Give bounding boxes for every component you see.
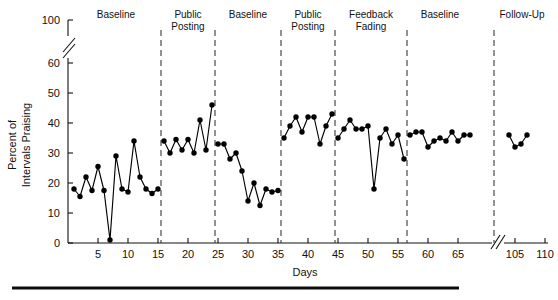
data-point bbox=[347, 117, 352, 122]
data-point bbox=[299, 129, 304, 134]
y-axis-break-mark bbox=[63, 44, 75, 58]
x-tick-label-45: 45 bbox=[332, 248, 344, 260]
y-axis-break-mark bbox=[63, 38, 75, 52]
data-point bbox=[227, 156, 232, 161]
data-point bbox=[275, 188, 280, 193]
y-tick-label-60: 60 bbox=[48, 57, 60, 69]
phase-label-4-line-1: Fading bbox=[356, 21, 387, 32]
data-point bbox=[137, 174, 142, 179]
data-point bbox=[233, 150, 238, 155]
data-point bbox=[89, 188, 94, 193]
data-point bbox=[215, 141, 220, 146]
data-point bbox=[179, 147, 184, 152]
data-point bbox=[293, 114, 298, 119]
y-tick-label-20: 20 bbox=[48, 177, 60, 189]
data-point bbox=[209, 102, 214, 107]
phase-label-6-line-0: Follow-Up bbox=[499, 9, 544, 20]
data-point bbox=[377, 135, 382, 140]
phase-label-1-line-0: Public bbox=[174, 9, 201, 20]
data-point bbox=[239, 168, 244, 173]
data-point bbox=[365, 123, 370, 128]
data-point bbox=[287, 123, 292, 128]
data-point bbox=[353, 126, 358, 131]
y-axis: 0102030405060100 bbox=[42, 14, 75, 249]
data-point bbox=[305, 114, 310, 119]
x-tick-label-25: 25 bbox=[212, 248, 224, 260]
data-point bbox=[449, 129, 454, 134]
x-tick-label-20: 20 bbox=[182, 248, 194, 260]
data-point bbox=[518, 141, 523, 146]
data-point bbox=[161, 138, 166, 143]
data-point bbox=[506, 132, 511, 137]
data-point bbox=[419, 129, 424, 134]
x-tick-label-10: 10 bbox=[122, 248, 134, 260]
data-point bbox=[335, 135, 340, 140]
data-point bbox=[197, 117, 202, 122]
data-point bbox=[311, 114, 316, 119]
data-point bbox=[467, 132, 472, 137]
data-point bbox=[359, 126, 364, 131]
line-chart: 0102030405060100 51015202530354045505560… bbox=[0, 0, 558, 300]
x-tick-label-5: 5 bbox=[95, 248, 101, 260]
data-point bbox=[131, 138, 136, 143]
data-point bbox=[257, 203, 262, 208]
phase-label-3-line-1: Posting bbox=[291, 21, 324, 32]
x-tick-label-40: 40 bbox=[302, 248, 314, 260]
phase-label-5-line-0: Baseline bbox=[421, 9, 460, 20]
data-point bbox=[221, 141, 226, 146]
data-point bbox=[323, 123, 328, 128]
series-line-segment-6 bbox=[509, 135, 527, 147]
series-line-segment-1 bbox=[164, 105, 212, 153]
x-tick-label-15: 15 bbox=[152, 248, 164, 260]
phase-label-3-line-0: Public bbox=[294, 9, 321, 20]
data-point bbox=[461, 132, 466, 137]
x-axis-title: Days bbox=[292, 266, 318, 278]
phase-label-4-line-0: Feedback bbox=[349, 9, 394, 20]
data-point bbox=[77, 194, 82, 199]
phase-label-2-line-0: Baseline bbox=[229, 9, 268, 20]
data-point bbox=[191, 150, 196, 155]
data-point bbox=[173, 137, 178, 142]
data-point bbox=[341, 126, 346, 131]
y-tick-label-100: 100 bbox=[42, 14, 60, 26]
data-point bbox=[512, 144, 517, 149]
data-point bbox=[95, 164, 100, 169]
x-tick-label-50: 50 bbox=[362, 248, 374, 260]
data-point bbox=[155, 186, 160, 191]
data-point bbox=[263, 186, 268, 191]
data-point bbox=[113, 153, 118, 158]
x-tick-label-110: 110 bbox=[536, 248, 554, 260]
x-tick-label-30: 30 bbox=[242, 248, 254, 260]
data-point bbox=[437, 135, 442, 140]
data-point bbox=[203, 147, 208, 152]
series-line-segment-2 bbox=[218, 144, 278, 206]
x-axis: 5101520253035404550556065105110 bbox=[68, 235, 554, 260]
y-tick-label-0: 0 bbox=[54, 237, 60, 249]
data-point bbox=[71, 186, 76, 191]
data-point bbox=[317, 141, 322, 146]
data-point bbox=[185, 137, 190, 142]
x-axis-break-mark bbox=[496, 235, 505, 249]
data-point bbox=[524, 132, 529, 137]
data-point bbox=[83, 174, 88, 179]
x-axis-break-mark bbox=[491, 235, 500, 249]
data-point bbox=[281, 135, 286, 140]
data-point bbox=[389, 141, 394, 146]
y-axis-title-line-1: Intervals Praising bbox=[20, 103, 32, 187]
data-point bbox=[107, 237, 112, 242]
data-series-praising bbox=[71, 102, 529, 242]
data-point bbox=[455, 138, 460, 143]
phase-dividers bbox=[161, 30, 494, 243]
data-point bbox=[413, 129, 418, 134]
data-point bbox=[371, 186, 376, 191]
data-point bbox=[269, 189, 274, 194]
x-tick-label-65: 65 bbox=[452, 248, 464, 260]
phase-label-0-line-0: Baseline bbox=[97, 9, 136, 20]
data-point bbox=[407, 132, 412, 137]
data-point bbox=[167, 150, 172, 155]
data-point bbox=[443, 138, 448, 143]
x-tick-label-60: 60 bbox=[422, 248, 434, 260]
figure-container: 0102030405060100 51015202530354045505560… bbox=[0, 0, 558, 300]
y-tick-label-50: 50 bbox=[48, 87, 60, 99]
x-tick-label-105: 105 bbox=[506, 248, 524, 260]
